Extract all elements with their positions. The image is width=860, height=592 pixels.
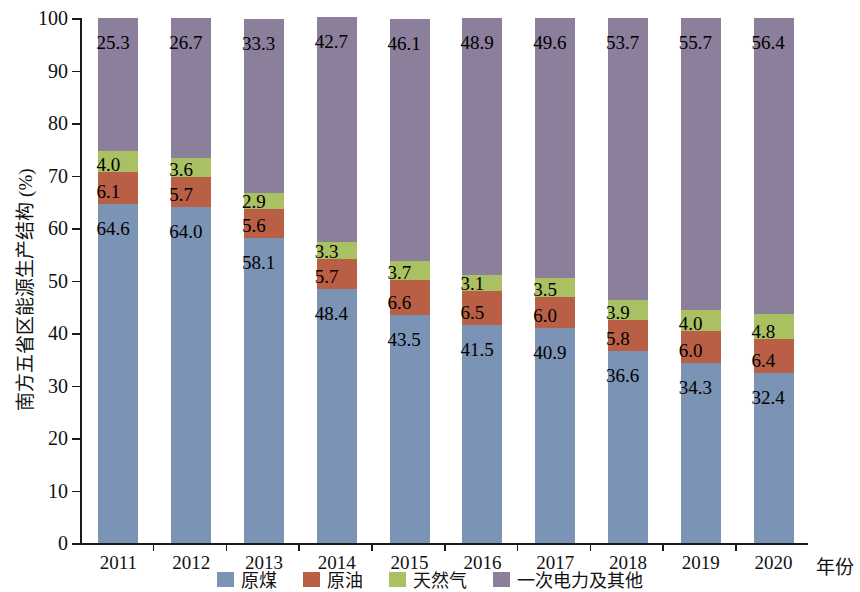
bar-value-label: 4.0	[679, 314, 703, 333]
x-tick	[444, 543, 446, 551]
bar-value-label: 64.6	[96, 219, 129, 238]
bar-value-label: 3.7	[388, 263, 412, 282]
x-tick	[371, 543, 373, 551]
bar-segment[interactable]	[317, 289, 357, 543]
table-row[interactable]: 40.96.03.549.6	[535, 18, 575, 543]
y-tick-label: 90	[48, 59, 68, 82]
bar-segment[interactable]	[244, 238, 284, 543]
bar-value-label: 5.7	[315, 267, 339, 286]
legend-item[interactable]: 一次电力及其他	[493, 566, 643, 592]
y-tick-label: 30	[48, 374, 68, 397]
y-tick	[72, 491, 80, 493]
bar-value-label: 48.9	[460, 33, 493, 52]
table-row[interactable]: 34.36.04.055.7	[681, 18, 721, 543]
x-tick	[517, 543, 519, 551]
table-row[interactable]: 64.05.73.626.7	[171, 18, 211, 543]
legend-swatch-icon	[303, 572, 320, 587]
y-tick	[72, 333, 80, 335]
x-tick	[153, 543, 155, 551]
y-axis-line	[80, 18, 82, 545]
bar-value-label: 3.1	[460, 274, 484, 293]
y-tick	[72, 438, 80, 440]
table-row[interactable]: 64.66.14.025.3	[98, 18, 138, 543]
bar-value-label: 43.5	[388, 330, 421, 349]
legend-label: 原油	[327, 566, 363, 592]
y-tick-label: 100	[38, 7, 68, 30]
y-tick	[72, 281, 80, 283]
bar-value-label: 55.7	[679, 33, 712, 52]
y-tick	[72, 176, 80, 178]
legend-label: 天然气	[413, 566, 467, 592]
bar-value-label: 3.3	[315, 242, 339, 261]
bar-value-label: 6.5	[460, 303, 484, 322]
y-tick	[72, 228, 80, 230]
bar-value-label: 4.8	[752, 322, 776, 341]
bar-value-label: 6.1	[96, 182, 120, 201]
legend-item[interactable]: 原煤	[217, 566, 277, 592]
y-tick-label: 80	[48, 112, 68, 135]
y-axis-title: 南方五省区能源生产结构 (%)	[10, 130, 37, 450]
table-row[interactable]: 43.56.63.746.1	[390, 18, 430, 543]
bar-segment[interactable]	[535, 18, 575, 278]
y-tick	[72, 386, 80, 388]
legend-label: 原煤	[241, 566, 277, 592]
bar-value-label: 6.4	[752, 351, 776, 370]
bar-value-label: 3.5	[533, 280, 557, 299]
y-tick-label: 60	[48, 217, 68, 240]
bar-value-label: 49.6	[533, 33, 566, 52]
bar-value-label: 48.4	[315, 304, 348, 323]
bar-value-label: 6.0	[679, 341, 703, 360]
bar-segment[interactable]	[98, 204, 138, 543]
y-tick	[72, 71, 80, 73]
legend-label: 一次电力及其他	[517, 566, 643, 592]
bar-segment[interactable]	[681, 18, 721, 310]
legend-swatch-icon	[493, 572, 510, 587]
y-tick-label: 40	[48, 322, 68, 345]
bar-value-label: 33.3	[242, 34, 275, 53]
bar-value-label: 40.9	[533, 343, 566, 362]
bar-value-label: 56.4	[752, 33, 785, 52]
bar-value-label: 6.6	[388, 293, 412, 312]
stacked-bar-chart: 南方五省区能源生产结构 (%) 0102030405060708090100 2…	[0, 0, 860, 592]
legend-swatch-icon	[389, 572, 406, 587]
bar-value-label: 42.7	[315, 32, 348, 51]
bar-value-label: 2.9	[242, 192, 266, 211]
y-tick-label: 50	[48, 269, 68, 292]
bar-segment[interactable]	[462, 18, 502, 275]
bar-value-label: 32.4	[752, 388, 785, 407]
bar-segment[interactable]	[390, 19, 430, 261]
plot-area: 0102030405060708090100 20112012201320142…	[80, 18, 808, 545]
bar-segment[interactable]	[171, 207, 211, 543]
y-tick-label: 70	[48, 164, 68, 187]
chart-legend: 原煤原油天然气一次电力及其他	[0, 566, 860, 592]
bar-value-label: 41.5	[460, 340, 493, 359]
bar-value-label: 3.6	[169, 160, 193, 179]
bar-value-label: 6.0	[533, 306, 557, 325]
table-row[interactable]: 48.45.73.342.7	[317, 18, 357, 543]
y-tick-label: 10	[48, 479, 68, 502]
x-tick	[735, 543, 737, 551]
legend-item[interactable]: 天然气	[389, 566, 467, 592]
bar-value-label: 26.7	[169, 33, 202, 52]
bar-value-label: 5.8	[606, 329, 630, 348]
bar-value-label: 25.3	[96, 33, 129, 52]
bar-value-label: 64.0	[169, 222, 202, 241]
y-tick	[72, 123, 80, 125]
legend-item[interactable]: 原油	[303, 566, 363, 592]
bar-value-label: 46.1	[388, 34, 421, 53]
x-tick	[298, 543, 300, 551]
bar-value-label: 53.7	[606, 33, 639, 52]
table-row[interactable]: 41.56.53.148.9	[462, 18, 502, 543]
bar-segment[interactable]	[754, 18, 794, 314]
bar-value-label: 4.0	[96, 155, 120, 174]
table-row[interactable]: 32.46.44.856.4	[754, 18, 794, 543]
table-row[interactable]: 36.65.83.953.7	[608, 18, 648, 543]
bar-segment[interactable]	[608, 18, 648, 300]
y-tick	[72, 18, 80, 20]
y-tick-label: 0	[58, 532, 68, 555]
table-row[interactable]: 58.15.62.933.3	[244, 18, 284, 543]
bar-value-label: 5.6	[242, 216, 266, 235]
bar-value-label: 36.6	[606, 366, 639, 385]
legend-swatch-icon	[217, 572, 234, 587]
y-tick-label: 20	[48, 427, 68, 450]
